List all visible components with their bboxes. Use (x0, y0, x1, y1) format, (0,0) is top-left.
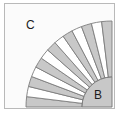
figure-root: C B (0, 0, 121, 118)
region-label-c: C (26, 19, 35, 31)
figure-frame: C B (4, 3, 115, 109)
region-label-b: B (94, 89, 102, 101)
